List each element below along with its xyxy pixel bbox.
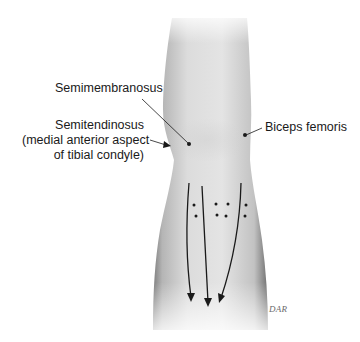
- dot-icon: [225, 215, 228, 218]
- semitendinosus-label: Semitendinosus (medial anterior aspect o…: [22, 118, 144, 163]
- dot-icon: [245, 204, 248, 207]
- dot-icon: [195, 215, 198, 218]
- dot-icon: [193, 204, 196, 207]
- biceps-femoris-label: Biceps femoris: [265, 120, 347, 135]
- biceps-femoris-point-icon: [243, 133, 247, 137]
- dot-icon: [244, 215, 247, 218]
- semitendinosus-label-line2: (medial anterior aspect: [22, 133, 144, 148]
- artist-signature: DAR: [269, 304, 287, 314]
- semitendinosus-label-line3: of tibial condyle): [22, 148, 144, 163]
- anatomy-illustration: Semimembranosus Semitendinosus (medial a…: [0, 0, 360, 342]
- dot-icon: [215, 203, 218, 206]
- semimembranosus-point-icon: [187, 142, 191, 146]
- leg-drawing: [0, 0, 360, 342]
- edge-fade: [140, 10, 280, 342]
- dot-icon: [227, 203, 230, 206]
- semitendinosus-label-line1: Semitendinosus: [22, 118, 144, 133]
- semimembranosus-label: Semimembranosus: [55, 81, 163, 96]
- dot-icon: [216, 214, 219, 217]
